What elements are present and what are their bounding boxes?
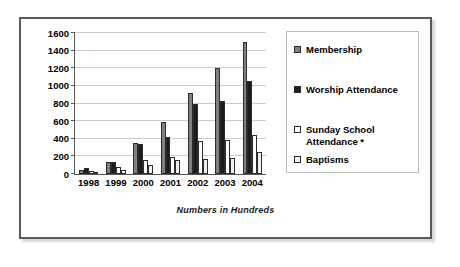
legend-swatch-icon — [294, 126, 301, 133]
bar — [121, 170, 126, 174]
chart-legend: MembershipWorship AttendanceSunday Schoo… — [286, 31, 419, 173]
legend-item-label: Sunday School Attendance * — [306, 124, 418, 147]
y-axis-label: 1000 — [48, 81, 69, 91]
bar-group-2002: 2002 — [184, 33, 211, 174]
bar — [257, 152, 262, 174]
x-axis-label: 1999 — [102, 178, 129, 188]
legend-item-label: Membership — [306, 44, 362, 56]
y-axis-label: 200 — [53, 152, 69, 162]
bar-chart: 02004006008001000120014001600 1998199920… — [21, 19, 430, 237]
bar-group-1998: 1998 — [75, 33, 102, 174]
y-axis-label: 600 — [53, 116, 69, 126]
legend-item-label: Baptisms — [306, 154, 349, 166]
chart-caption: Numbers in Hundreds — [21, 205, 430, 215]
bar-group-2003: 2003 — [211, 33, 238, 174]
bar — [94, 172, 99, 174]
legend-item-1: Worship Attendance — [294, 84, 398, 96]
legend-item-label: Worship Attendance — [306, 84, 398, 96]
bar — [175, 160, 180, 174]
legend-swatch-icon — [294, 46, 301, 53]
legend-swatch-icon — [294, 156, 301, 163]
legend-item-3: Baptisms — [294, 154, 349, 166]
bar-group-2004: 2004 — [239, 33, 266, 174]
bar-group-2001: 2001 — [157, 33, 184, 174]
y-axis-label: 800 — [53, 99, 69, 109]
y-axis-label: 1600 — [48, 28, 69, 38]
y-axis-label: 0 — [64, 169, 69, 179]
bar — [203, 159, 208, 174]
y-axis-label: 1200 — [48, 64, 69, 74]
x-axis-label: 2004 — [239, 178, 266, 188]
plot-area: 02004006008001000120014001600 1998199920… — [74, 33, 266, 175]
plot-wrapper: 02004006008001000120014001600 1998199920… — [74, 33, 266, 175]
y-axis-label: 1400 — [48, 46, 69, 56]
x-axis-label: 2000 — [130, 178, 157, 188]
y-axis-label: 400 — [53, 134, 69, 144]
bar-group-2000: 2000 — [130, 33, 157, 174]
bar — [148, 165, 153, 174]
legend-item-0: Membership — [294, 44, 362, 56]
legend-swatch-icon — [294, 86, 301, 93]
chart-frame: 02004006008001000120014001600 1998199920… — [19, 17, 432, 239]
legend-item-2: Sunday School Attendance * — [294, 124, 418, 147]
bar — [230, 158, 235, 174]
x-axis-label: 2003 — [211, 178, 238, 188]
x-axis-label: 1998 — [75, 178, 102, 188]
x-axis-label: 2002 — [184, 178, 211, 188]
x-axis-label: 2001 — [157, 178, 184, 188]
bar-group-1999: 1999 — [102, 33, 129, 174]
